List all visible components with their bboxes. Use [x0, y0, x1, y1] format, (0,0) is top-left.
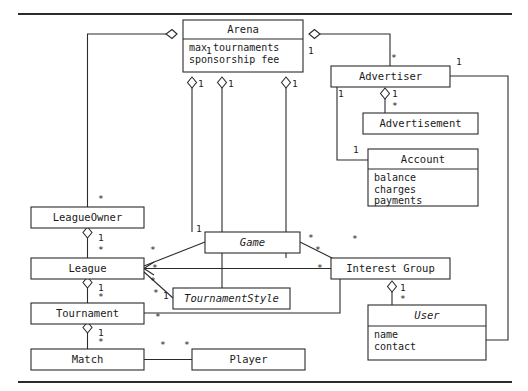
multiplicity-label: *	[391, 52, 397, 63]
multiplicity-label: 1	[163, 290, 169, 301]
class-box-user[interactable]: Usernamecontact	[368, 305, 486, 360]
multiplicity-label: *	[150, 244, 156, 255]
class-box-account[interactable]: Accountbalancechargespayments	[368, 149, 478, 206]
multiplicity-label: *	[308, 232, 314, 243]
class-box-leagueowner[interactable]: LeagueOwner	[31, 207, 144, 228]
diamond-arena-tournamentstyle	[218, 77, 227, 88]
multiplicity-label: *	[160, 339, 166, 350]
class-name-label: User	[414, 309, 440, 321]
edge-arena-leagueowner	[88, 34, 173, 207]
class-name-label: Tournament	[56, 307, 119, 319]
class-attribute: payments	[374, 195, 422, 206]
multiplicity-label: *	[152, 262, 158, 273]
multiplicity-label: *	[184, 339, 190, 350]
multiplicity-label: 1	[400, 282, 406, 293]
class-attribute: max tournaments	[189, 42, 279, 53]
class-name-label: LeagueOwner	[53, 211, 123, 223]
multiplicity-label: 1	[98, 232, 104, 243]
multiplicity-label: *	[98, 291, 104, 302]
multiplicity-label: *	[315, 244, 321, 255]
multiplicity-label: 1	[392, 88, 398, 99]
class-name-label: Arena	[227, 23, 259, 35]
multiplicity-label: *	[317, 262, 323, 273]
multiplicity-label: 1	[338, 88, 344, 99]
multiplicity-label: *	[150, 275, 156, 286]
class-name-label: Advertiser	[359, 70, 422, 82]
class-box-tournament[interactable]: Tournament	[31, 303, 144, 324]
multiplicity-label: *	[400, 293, 406, 304]
multiplicity-label: 1	[292, 78, 298, 89]
class-attribute: name	[374, 329, 398, 340]
diamond-arena-advertiser	[309, 30, 320, 39]
class-name-label: Interest Group	[346, 262, 435, 274]
class-name-label: Game	[240, 236, 265, 248]
multiplicity-label: 1	[353, 144, 359, 155]
class-name-label: TournamentStyle	[184, 292, 279, 304]
class-name-label: League	[69, 262, 107, 274]
multiplicity-label: 1	[206, 45, 212, 56]
edge-arena-advertiser	[314, 34, 390, 66]
class-box-player[interactable]: Player	[192, 349, 305, 370]
uml-class-diagram: Arenamax tournamentssponsorship feeAdver…	[0, 0, 528, 391]
diamond-leagueowner-league	[83, 227, 92, 238]
multiplicity-label: 1	[228, 78, 234, 89]
multiplicity-label: 1	[196, 223, 202, 234]
multiplicity-label: *	[98, 336, 104, 347]
multiplicity-label: *	[392, 100, 398, 111]
class-box-interestgroup[interactable]: Interest Group	[331, 258, 450, 279]
class-name-label: Advertisement	[379, 117, 461, 129]
class-box-arena[interactable]: Arenamax tournamentssponsorship fee	[183, 20, 303, 72]
class-attribute: balance	[374, 172, 416, 183]
class-box-game[interactable]: Game	[205, 232, 300, 253]
class-name-label: Account	[401, 153, 445, 165]
multiplicity-label: *	[98, 244, 104, 255]
multiplicity-label: 1	[308, 45, 314, 56]
class-attribute: contact	[374, 341, 416, 352]
diamond-arena-interestgroup	[282, 77, 291, 88]
multiplicity-label: *	[352, 233, 358, 244]
multiplicity-label: 1	[456, 56, 462, 67]
class-box-advertisement[interactable]: Advertisement	[363, 113, 478, 134]
class-name-label: Player	[230, 353, 268, 365]
class-box-match[interactable]: Match	[31, 349, 144, 370]
diamond-interestgroup-user	[388, 281, 397, 292]
class-attribute: sponsorship fee	[189, 54, 279, 65]
class-name-label: Match	[72, 353, 104, 365]
class-box-league[interactable]: League	[31, 258, 144, 279]
multiplicity-label: 1	[198, 78, 204, 89]
diamond-advertiser-advertisement	[381, 88, 390, 99]
multiplicity-label: *	[155, 311, 161, 322]
diamond-arena-leagueowner	[166, 30, 177, 39]
multiplicity-label: *	[98, 193, 104, 204]
class-box-advertiser[interactable]: Advertiser	[331, 66, 450, 87]
multiplicity-label: *	[153, 287, 159, 298]
diamond-arena-game	[188, 77, 197, 88]
diagram-canvas: Arenamax tournamentssponsorship feeAdver…	[0, 0, 528, 391]
class-box-tournamentstyle[interactable]: TournamentStyle	[173, 288, 290, 309]
class-attribute: charges	[374, 184, 416, 195]
